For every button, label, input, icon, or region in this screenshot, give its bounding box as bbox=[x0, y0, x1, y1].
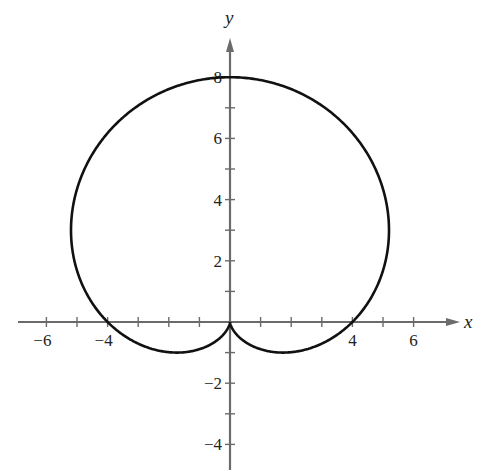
x-axis-label: x bbox=[463, 311, 473, 332]
axes bbox=[18, 38, 460, 470]
y-tick-label: −4 bbox=[204, 435, 223, 454]
x-axis-arrow-icon bbox=[446, 318, 460, 326]
y-tick-label: 2 bbox=[214, 252, 223, 271]
x-tick-label: 4 bbox=[348, 331, 357, 350]
y-tick-label: −2 bbox=[204, 374, 222, 393]
x-tick-label: −6 bbox=[33, 331, 51, 350]
y-tick-label: 6 bbox=[214, 129, 223, 148]
cardioid-chart: −6−4468642−2−4 x y bbox=[0, 0, 486, 470]
y-tick-label: 4 bbox=[214, 191, 223, 210]
y-axis-arrow-icon bbox=[226, 38, 234, 52]
x-tick-label: −4 bbox=[95, 331, 114, 350]
x-tick-label: 6 bbox=[409, 331, 418, 350]
y-axis-label: y bbox=[223, 7, 234, 28]
